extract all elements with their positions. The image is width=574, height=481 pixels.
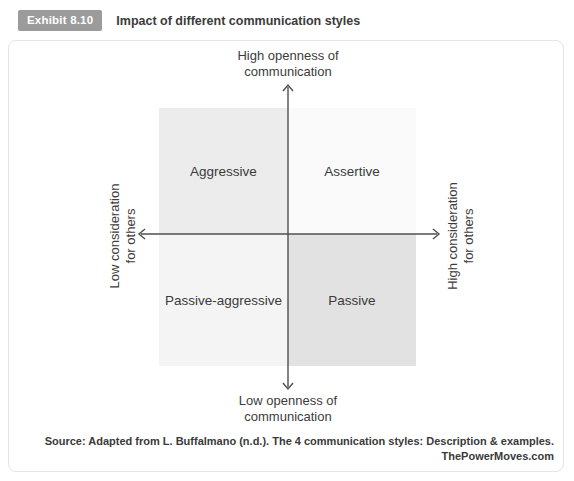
exhibit-title: Impact of different communication styles xyxy=(116,14,360,28)
quadrant-figure: Aggressive Assertive Passive-aggressive … xyxy=(8,40,564,472)
quadrant-label-aggressive: Aggressive xyxy=(190,164,257,179)
axis-label-bottom-line1: Low openness of xyxy=(198,393,378,409)
exhibit-page: Exhibit 8.10 Impact of different communi… xyxy=(0,0,574,481)
axis-label-left-line2: for others xyxy=(123,146,139,326)
axis-label-bottom: Low openness of communication xyxy=(198,393,378,425)
quadrant-passive-aggressive: Passive-aggressive xyxy=(159,234,288,366)
source-line1: Source: Adapted from L. Buffalmano (n.d.… xyxy=(45,434,554,449)
quadrant-label-passive: Passive xyxy=(328,293,375,308)
axis-label-left: Low consideration for others xyxy=(107,146,139,326)
quadrant-label-assertive: Assertive xyxy=(324,164,380,179)
arrowhead-right-icon xyxy=(433,229,439,239)
arrowhead-left-icon xyxy=(139,229,145,239)
quadrant-grid: Aggressive Assertive Passive-aggressive … xyxy=(159,108,416,366)
quadrant-assertive: Assertive xyxy=(288,108,416,234)
quadrant-aggressive: Aggressive xyxy=(159,108,288,234)
exhibit-badge: Exhibit 8.10 xyxy=(18,10,102,31)
axis-label-right-line1: High consideration xyxy=(445,146,461,326)
axis-label-top-line1: High openness of xyxy=(198,48,378,64)
axis-label-top: High openness of communication xyxy=(198,48,378,80)
quadrant-passive: Passive xyxy=(288,234,416,366)
quadrant-label-passive-aggressive: Passive-aggressive xyxy=(165,293,282,308)
source-note: Source: Adapted from L. Buffalmano (n.d.… xyxy=(45,434,554,464)
arrowhead-down-icon xyxy=(283,383,293,389)
source-line2: ThePowerMoves.com xyxy=(45,449,554,464)
axis-label-top-line2: communication xyxy=(198,64,378,80)
axis-label-right: High consideration for others xyxy=(445,146,477,326)
axis-label-right-line2: for others xyxy=(461,146,477,326)
axis-label-left-line1: Low consideration xyxy=(107,146,123,326)
axis-label-bottom-line2: communication xyxy=(198,409,378,425)
exhibit-header: Exhibit 8.10 Impact of different communi… xyxy=(18,10,360,31)
arrowhead-up-icon xyxy=(283,85,293,91)
